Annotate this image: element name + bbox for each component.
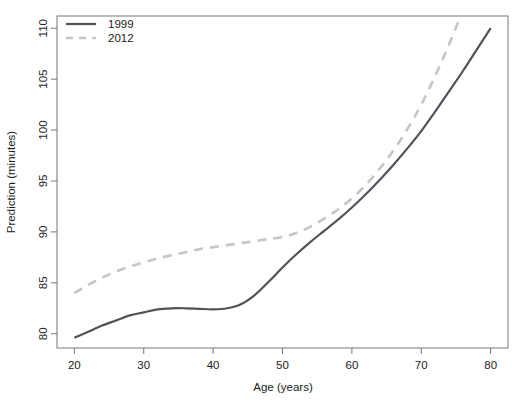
- x-tick-label: 80: [484, 359, 497, 371]
- y-axis-title: Prediction (minutes): [5, 131, 17, 233]
- y-tick-label: 110: [37, 19, 49, 37]
- y-tick-label: 85: [37, 276, 49, 289]
- line-chart: 80859095100105110 20304050607080 1999201…: [0, 0, 526, 409]
- y-tick-label: 90: [37, 226, 49, 239]
- x-axis-title: Age (years): [253, 381, 313, 393]
- legend-label-2012: 2012: [108, 32, 134, 44]
- x-tick-label: 60: [345, 359, 358, 371]
- chart-container: 80859095100105110 20304050607080 1999201…: [0, 0, 526, 409]
- x-tick-label: 50: [276, 359, 289, 371]
- y-tick-label: 80: [37, 327, 49, 340]
- y-tick-label: 100: [37, 120, 49, 139]
- legend-label-1999: 1999: [108, 18, 134, 30]
- x-tick-label: 30: [137, 359, 150, 371]
- x-tick-label: 70: [415, 359, 428, 371]
- y-tick-label: 95: [37, 175, 49, 188]
- x-tick-label: 40: [207, 359, 220, 371]
- x-tick-label: 20: [68, 359, 81, 371]
- y-tick-label: 105: [37, 70, 49, 89]
